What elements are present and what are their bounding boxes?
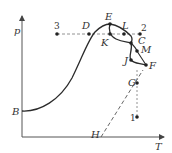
point-m <box>135 49 139 53</box>
label-2: 2 <box>141 23 147 33</box>
phase-diagram: p T B 3 D E K L 2 C M J F G 1 H <box>0 0 172 153</box>
point-1 <box>135 115 139 119</box>
label-h: H <box>90 129 100 140</box>
x-axis-label: T <box>155 141 163 152</box>
label-l: L <box>121 20 129 31</box>
label-e: E <box>104 11 113 22</box>
point-l <box>122 32 126 36</box>
point-e <box>108 22 112 26</box>
label-m: M <box>140 44 152 55</box>
point-3 <box>55 32 59 36</box>
point-c <box>129 41 133 45</box>
y-axis-label: p <box>14 25 21 36</box>
label-1: 1 <box>130 113 136 123</box>
label-d: D <box>81 20 90 31</box>
label-k: K <box>100 37 109 48</box>
label-b: B <box>11 106 19 117</box>
point-k <box>108 32 112 36</box>
point-j <box>129 58 133 62</box>
label-j: J <box>122 55 129 66</box>
label-3: 3 <box>54 21 60 31</box>
label-f: F <box>148 60 157 71</box>
point-f <box>144 63 148 67</box>
point-d <box>87 32 91 36</box>
label-g: G <box>128 77 136 88</box>
curve-b-d-e <box>22 24 110 111</box>
